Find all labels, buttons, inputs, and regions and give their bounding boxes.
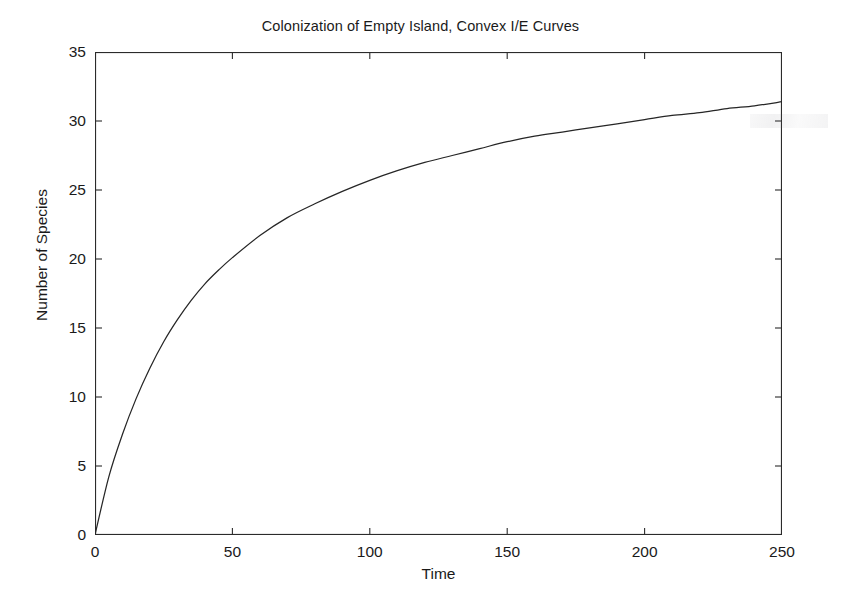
plot-area (95, 52, 782, 535)
plot-svg (95, 52, 782, 535)
chart-title: Colonization of Empty Island, Convex I/E… (0, 18, 841, 34)
x-axis-tick-labels: 050100150200250 (95, 543, 782, 567)
y-tick-label: 25 (69, 181, 86, 199)
y-tick-label: 30 (69, 112, 86, 130)
x-tick-label: 100 (357, 543, 383, 561)
x-tick-label: 0 (91, 543, 100, 561)
x-axis-label: Time (95, 565, 782, 583)
y-tick-label: 0 (77, 526, 86, 544)
y-tick-label: 35 (69, 43, 86, 61)
species-accumulation-curve (95, 102, 782, 535)
y-tick-label: 10 (69, 388, 86, 406)
y-axis-label: Number of Species (33, 189, 51, 321)
y-axis-ticks (95, 52, 782, 535)
axes-frame (96, 53, 782, 535)
x-tick-label: 250 (769, 543, 795, 561)
x-tick-label: 50 (224, 543, 241, 561)
x-tick-label: 150 (494, 543, 520, 561)
y-tick-label: 15 (69, 319, 86, 337)
x-tick-label: 200 (632, 543, 658, 561)
y-tick-label: 5 (77, 457, 86, 475)
y-axis-label-wrapper: Number of Species (27, 14, 57, 497)
figure-canvas: Colonization of Empty Island, Convex I/E… (0, 0, 841, 599)
y-tick-label: 20 (69, 250, 86, 268)
x-axis-ticks (95, 52, 782, 535)
